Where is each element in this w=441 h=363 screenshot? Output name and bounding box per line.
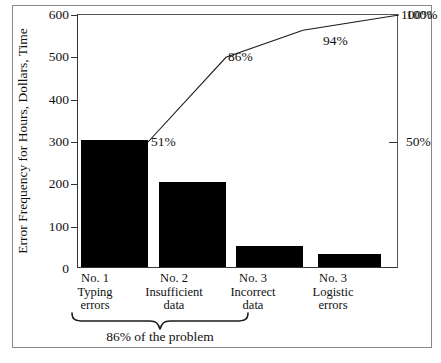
- category-line-1: No. 3: [208, 272, 298, 286]
- category-line-1: No. 1: [50, 272, 140, 286]
- pct-label-51: 51%: [151, 135, 176, 149]
- bar-typing-errors[interactable]: [81, 140, 148, 267]
- y-right-tick-label-50: 50%: [406, 135, 431, 149]
- category-label-logistic-errors: No. 3 Logistic errors: [288, 272, 378, 313]
- y-tick-label-500: 500: [49, 51, 69, 65]
- y-tick-label-100: 100: [49, 220, 69, 234]
- category-line-2: Logistic: [288, 286, 378, 300]
- category-label-typing-errors: No. 1 Typing errors: [50, 272, 140, 313]
- brace-annotation-text: 86% of the problem: [70, 330, 250, 344]
- category-line-1: No. 3: [288, 272, 378, 286]
- bar-logistic-errors[interactable]: [318, 254, 381, 267]
- pct-label-94: 94%: [323, 34, 348, 48]
- bar-incorrect-data[interactable]: [236, 246, 303, 267]
- pareto-chart-figure: Error Frequency for Hours, Dollars, Time…: [0, 0, 441, 363]
- y-tick-label-600: 600: [49, 8, 69, 22]
- pct-label-86: 86%: [228, 50, 253, 64]
- category-line-2: Insufficient: [129, 286, 219, 300]
- pct-label-100: 100%: [401, 8, 433, 22]
- y-axis-title: Error Frequency for Hours, Dollars, Time: [14, 14, 32, 268]
- y-tick-label-300: 300: [49, 135, 69, 149]
- category-line-3: errors: [288, 299, 378, 313]
- y-tick-label-400: 400: [49, 93, 69, 107]
- category-line-1: No. 2: [129, 272, 219, 286]
- category-line-2: Incorrect: [208, 286, 298, 300]
- category-label-incorrect-data: No. 3 Incorrect data: [208, 272, 298, 313]
- bar-insufficient-data[interactable]: [159, 182, 226, 267]
- category-label-insufficient-data: No. 2 Insufficient data: [129, 272, 219, 313]
- y-tick-label-200: 200: [49, 178, 69, 192]
- brace-icon: [70, 311, 250, 331]
- category-line-2: Typing: [50, 286, 140, 300]
